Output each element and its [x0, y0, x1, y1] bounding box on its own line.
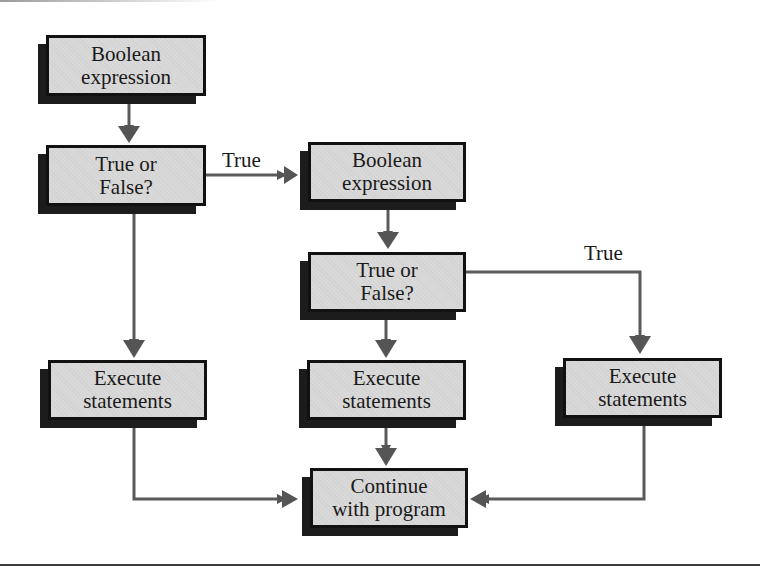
decision2-line1: True or: [356, 259, 418, 282]
decision1-line2: False?: [95, 176, 157, 199]
execute-middle-line1: Execute: [342, 367, 431, 390]
true-label-2: True: [584, 241, 623, 266]
boolean1-line2: expression: [81, 66, 171, 89]
boolean2-line2: expression: [342, 172, 432, 195]
arrow-decision2-to-execute-right: [465, 272, 640, 344]
arrow-execute-left-to-continue: [134, 427, 286, 499]
boolean-expression-box-1: Boolean expression: [46, 35, 206, 96]
continue-line1: Continue: [332, 475, 446, 498]
decision2-line2: False?: [356, 282, 418, 305]
bottom-rule: [0, 564, 760, 566]
continue-with-program-box: Continue with program: [310, 468, 468, 528]
true-label-1: True: [222, 148, 261, 173]
arrow-execute-right-to-continue: [480, 425, 644, 499]
decision-box-1: True or False?: [46, 145, 206, 206]
execute-middle-line2: statements: [342, 390, 431, 413]
execute-right-line2: statements: [598, 388, 687, 411]
execute-statements-box-left: Execute statements: [48, 360, 207, 420]
execute-left-line1: Execute: [83, 367, 172, 390]
decision-box-2: True or False?: [308, 252, 466, 312]
execute-statements-box-right: Execute statements: [563, 358, 722, 418]
boolean1-line1: Boolean: [81, 43, 171, 66]
execute-left-line2: statements: [83, 390, 172, 413]
continue-line2: with program: [332, 498, 446, 521]
decision1-line1: True or: [95, 153, 157, 176]
execute-right-line1: Execute: [598, 365, 687, 388]
execute-statements-box-middle: Execute statements: [307, 360, 466, 420]
boolean2-line1: Boolean: [342, 149, 432, 172]
boolean-expression-box-2: Boolean expression: [308, 142, 466, 202]
